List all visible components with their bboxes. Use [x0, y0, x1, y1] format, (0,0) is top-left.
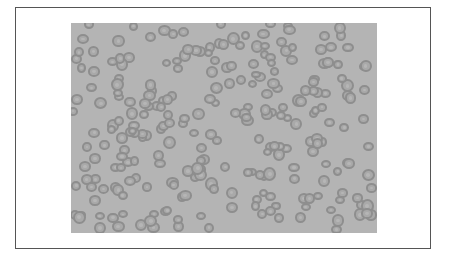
- red-blood-cell: [189, 129, 199, 137]
- red-blood-cell: [196, 212, 206, 220]
- red-blood-cell: [360, 60, 372, 72]
- red-blood-cell: [241, 31, 250, 41]
- red-blood-cell: [124, 176, 136, 187]
- red-blood-cell: [301, 203, 311, 211]
- red-blood-cell: [366, 183, 377, 192]
- red-blood-cell: [71, 181, 81, 191]
- red-blood-cell: [300, 85, 311, 96]
- red-blood-cell: [168, 29, 179, 39]
- red-blood-cell: [118, 191, 128, 200]
- red-blood-cell: [71, 94, 83, 105]
- red-blood-cell: [343, 158, 355, 169]
- red-blood-cell: [210, 56, 220, 65]
- red-blood-cell: [218, 39, 229, 50]
- red-blood-cell: [144, 215, 157, 227]
- red-blood-cell: [290, 118, 302, 131]
- red-blood-cell: [116, 132, 128, 143]
- red-blood-cell: [88, 46, 99, 57]
- red-blood-cell: [95, 212, 105, 220]
- red-blood-cell: [251, 71, 261, 79]
- red-blood-cell: [318, 175, 330, 188]
- red-blood-cell: [260, 42, 270, 50]
- red-blood-cell: [162, 206, 172, 215]
- red-blood-cell: [145, 79, 157, 90]
- red-blood-cell: [112, 35, 124, 48]
- red-blood-cell: [248, 80, 257, 88]
- red-blood-cell: [359, 85, 370, 95]
- red-blood-cell: [129, 23, 138, 31]
- red-blood-cell: [84, 23, 94, 29]
- red-blood-cell: [236, 75, 246, 85]
- red-blood-cell: [77, 63, 87, 72]
- red-blood-cell: [352, 193, 362, 202]
- red-blood-cell: [226, 202, 239, 213]
- red-blood-cell: [325, 42, 337, 52]
- red-blood-cell: [267, 59, 276, 67]
- red-blood-cell: [289, 174, 300, 184]
- red-blood-cell: [363, 142, 374, 151]
- red-blood-cell: [260, 104, 271, 116]
- red-blood-cell: [324, 118, 335, 127]
- red-blood-cell: [265, 23, 276, 28]
- red-blood-cell: [139, 110, 149, 119]
- red-blood-cell: [267, 78, 280, 88]
- red-blood-cell: [345, 92, 356, 103]
- red-blood-cell: [82, 142, 91, 152]
- red-blood-cell: [337, 74, 347, 83]
- red-blood-cell: [254, 134, 264, 144]
- blood-smear-image: [71, 23, 377, 233]
- red-blood-cell: [178, 27, 189, 36]
- red-blood-cell: [326, 206, 336, 214]
- red-blood-cell: [224, 78, 235, 88]
- red-blood-cell: [179, 190, 192, 201]
- red-blood-cell: [88, 66, 101, 77]
- red-blood-cell: [126, 107, 138, 120]
- red-blood-cell: [94, 222, 106, 233]
- red-blood-cell: [335, 196, 344, 204]
- red-blood-cell: [342, 43, 354, 53]
- red-blood-cell: [204, 223, 214, 233]
- red-blood-cell: [118, 210, 127, 218]
- red-blood-cell: [114, 116, 124, 126]
- red-blood-cell: [257, 29, 270, 40]
- red-blood-cell: [153, 150, 164, 161]
- red-blood-cell: [209, 184, 219, 193]
- red-blood-cell: [130, 156, 139, 166]
- red-blood-cell: [263, 167, 276, 181]
- red-blood-cell: [192, 108, 204, 120]
- red-blood-cell: [227, 32, 240, 45]
- red-blood-cell: [226, 61, 236, 72]
- red-blood-cell: [358, 114, 369, 123]
- red-blood-cell: [295, 212, 306, 223]
- red-blood-cell: [333, 60, 342, 69]
- red-blood-cell: [86, 83, 96, 92]
- red-blood-cell: [274, 213, 284, 223]
- red-blood-cell: [107, 125, 117, 134]
- red-blood-cell: [331, 225, 342, 233]
- red-blood-cell: [173, 64, 184, 73]
- red-blood-cell: [99, 140, 109, 151]
- red-blood-cell: [89, 153, 101, 165]
- red-blood-cell: [88, 128, 99, 138]
- red-blood-cell: [333, 167, 342, 175]
- red-blood-cell: [79, 161, 91, 172]
- red-blood-cell: [276, 37, 287, 47]
- red-blood-cell: [216, 23, 226, 29]
- red-blood-cell: [169, 180, 179, 190]
- red-blood-cell: [276, 111, 286, 120]
- red-blood-cell: [362, 169, 375, 181]
- red-blood-cell: [317, 103, 327, 112]
- red-blood-cell: [261, 89, 273, 99]
- red-blood-cell: [89, 195, 101, 206]
- red-blood-cell: [334, 23, 346, 34]
- red-blood-cell: [241, 113, 251, 122]
- red-blood-cell: [145, 32, 156, 42]
- red-blood-cell: [179, 114, 189, 123]
- red-blood-cell: [226, 187, 238, 199]
- red-blood-cell: [270, 67, 279, 75]
- red-blood-cell: [73, 211, 86, 224]
- red-blood-cell: [283, 25, 296, 35]
- red-blood-cell: [204, 94, 216, 104]
- red-blood-cell: [288, 163, 299, 172]
- red-blood-cell: [210, 82, 223, 94]
